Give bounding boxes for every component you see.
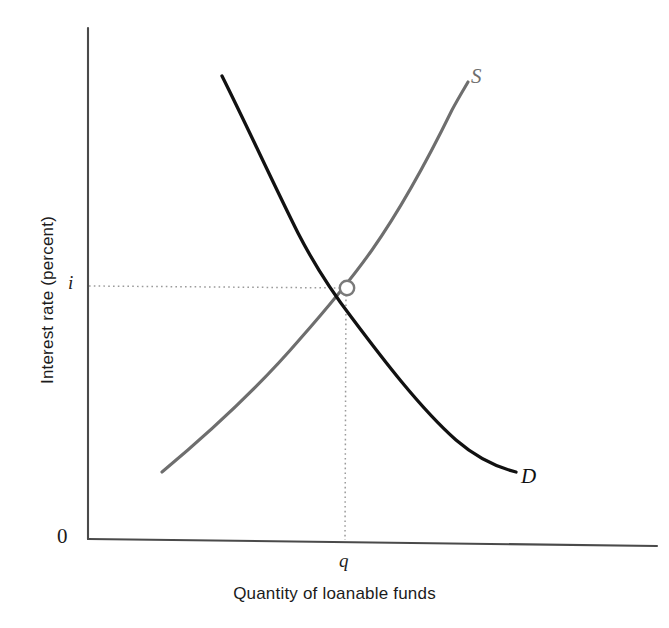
x-axis-line	[88, 539, 657, 546]
y-axis-title: Interest rate (percent)	[38, 160, 58, 440]
loanable-funds-chart: S D 0 i q Quantity of loanable funds Int…	[0, 0, 669, 628]
x-axis-title: Quantity of loanable funds	[0, 584, 669, 604]
x-axis-tick-label-q: q	[339, 550, 349, 572]
equilibrium-rate-guide-line	[89, 286, 345, 288]
origin-tick-label: 0	[57, 524, 68, 549]
equilibrium-point-marker	[340, 281, 354, 295]
supply-curve	[162, 82, 468, 472]
y-axis-tick-label-i: i	[68, 272, 73, 294]
demand-curve	[222, 76, 516, 472]
equilibrium-quantity-guide-line	[345, 290, 346, 540]
demand-curve-label: D	[521, 464, 536, 489]
chart-plot-area	[0, 0, 669, 628]
supply-curve-label: S	[471, 64, 482, 89]
